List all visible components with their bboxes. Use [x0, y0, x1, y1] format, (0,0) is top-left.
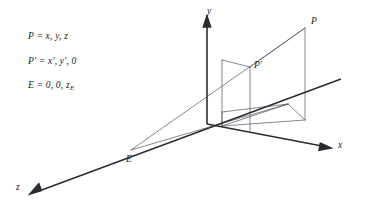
- equation-list: P = x, y, z P' = x', y', 0 E = 0, 0, zE: [28, 32, 148, 107]
- x-axis-arrowhead: [319, 143, 331, 150]
- perspective-projection-figure: P = x, y, z P' = x', y', 0 E = 0, 0, zE …: [0, 0, 373, 208]
- plane-base-edge-right: [288, 104, 305, 120]
- equation-point-E: E = 0, 0, zE: [28, 81, 148, 92]
- equation-point-P-prime: P' = x', y', 0: [28, 57, 148, 67]
- x-axis-line: [207, 124, 322, 146]
- plane-top-edge-to-p-prime: [222, 60, 250, 67]
- y-axis-arrowhead: [203, 16, 210, 27]
- label-point-P: P: [311, 17, 317, 27]
- equation-point-E-subscript: E: [70, 84, 74, 92]
- z-axis-arrowhead: [30, 184, 41, 194]
- plane-base-edge-rear: [222, 104, 288, 126]
- label-point-P-prime: P': [254, 61, 262, 71]
- label-axis-z: z: [16, 183, 20, 193]
- label-axis-y: y: [207, 7, 211, 17]
- label-axis-x: x: [338, 141, 342, 151]
- equation-point-P: P = x, y, z: [28, 32, 148, 42]
- equation-point-E-main: E = 0, 0, z: [28, 80, 70, 90]
- plane-base-edge-front: [222, 120, 305, 126]
- sight-ray-E-to-P: [131, 28, 305, 150]
- label-point-E: E: [126, 155, 132, 165]
